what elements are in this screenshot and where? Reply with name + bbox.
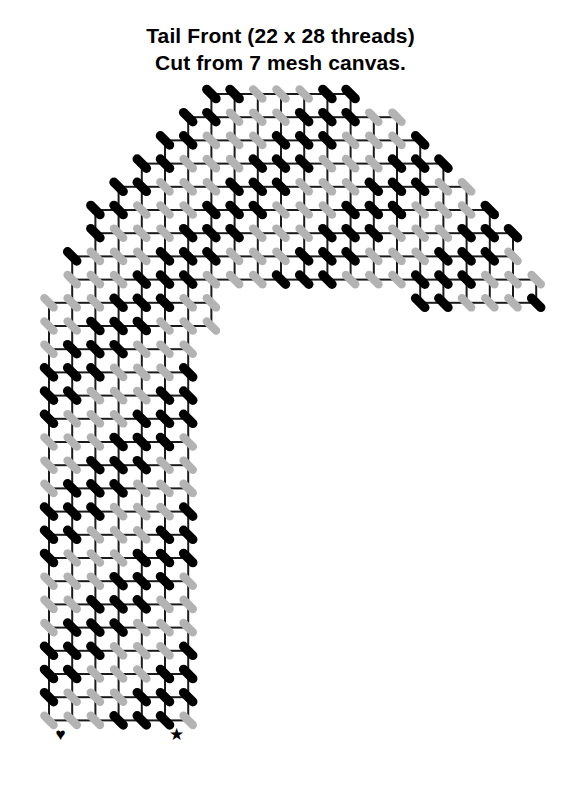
pattern-chart xyxy=(0,0,561,792)
star-marker-icon: ★ xyxy=(169,726,184,743)
page-subtitle: Cut from 7 mesh canvas. xyxy=(0,49,561,76)
heart-marker-icon: ♥ xyxy=(56,726,66,743)
pattern-grid-svg xyxy=(0,0,561,792)
chart-title-block: Tail Front (22 x 28 threads) Cut from 7 … xyxy=(0,22,561,76)
page-title: Tail Front (22 x 28 threads) xyxy=(0,22,561,49)
